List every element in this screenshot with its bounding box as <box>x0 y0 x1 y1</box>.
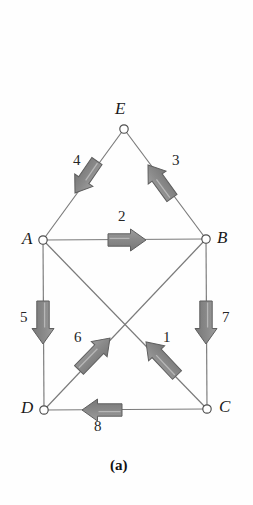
force-label-3: 3 <box>172 153 180 168</box>
force-arrow-8 <box>82 399 122 421</box>
joint-label-c: C <box>219 398 230 415</box>
force-arrow-7 <box>195 301 217 344</box>
truss-joint-e <box>120 125 128 133</box>
force-label-6: 6 <box>74 330 82 345</box>
joint-label-d: D <box>21 399 33 416</box>
truss-joint-c <box>203 405 211 413</box>
force-label-5: 5 <box>20 310 28 325</box>
arrow-body <box>32 301 54 344</box>
arrow-body <box>138 334 185 382</box>
force-label-4: 4 <box>73 153 81 168</box>
force-arrows-group <box>32 155 217 421</box>
truss-members-group <box>43 129 207 410</box>
force-arrow-5 <box>32 301 54 344</box>
truss-joints-group <box>39 125 211 414</box>
joint-label-a: A <box>22 230 32 247</box>
truss-member-dc <box>44 409 207 410</box>
force-arrow-2 <box>108 229 146 251</box>
truss-diagram-canvas <box>0 0 253 505</box>
truss-joint-b <box>202 235 210 243</box>
force-label-8: 8 <box>94 419 102 434</box>
arrow-body <box>108 229 146 251</box>
arrow-body <box>82 399 122 421</box>
force-label-2: 2 <box>118 209 126 224</box>
truss-joint-a <box>39 236 47 244</box>
force-label-7: 7 <box>222 310 230 325</box>
truss-member-bd <box>44 239 206 410</box>
joint-label-e: E <box>115 100 125 117</box>
force-arrow-1 <box>138 334 185 382</box>
truss-joint-d <box>40 406 48 414</box>
truss-figure: EABDC 12345678 (a) <box>0 0 253 505</box>
joint-label-b: B <box>217 229 227 246</box>
arrow-body <box>195 301 217 344</box>
force-label-1: 1 <box>163 330 171 345</box>
figure-caption: (a) <box>110 458 128 473</box>
